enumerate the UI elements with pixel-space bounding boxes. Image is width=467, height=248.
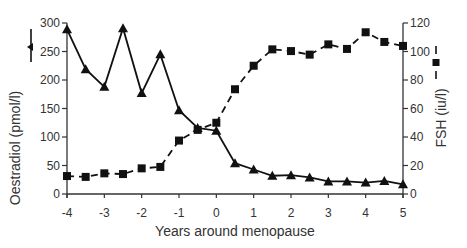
triangle-marker-icon — [27, 43, 33, 51]
y-right-tick-label: 80 — [410, 73, 424, 87]
square-marker-icon — [380, 38, 388, 46]
x-tick-label: 1 — [250, 206, 257, 220]
square-marker-icon — [100, 169, 108, 177]
triangle-marker-icon — [81, 64, 91, 73]
square-marker-icon — [343, 45, 351, 53]
y-right-tick-label: 120 — [410, 16, 430, 30]
x-tick-label: 3 — [325, 206, 332, 220]
y-right-tick-label: 0 — [410, 187, 417, 201]
fsh-line — [67, 32, 403, 177]
square-marker-icon — [156, 163, 164, 171]
square-marker-icon — [138, 164, 146, 172]
y-right-tick-label: 100 — [410, 45, 430, 59]
triangle-marker-icon — [62, 24, 72, 33]
dual-axis-line-chart: -4-3-2-101234505010015020025030002040608… — [0, 0, 467, 248]
x-tick-label: 5 — [400, 206, 407, 220]
x-axis-title: Years around menopause — [155, 223, 315, 239]
series-fsh — [63, 28, 407, 181]
triangle-marker-icon — [137, 88, 147, 97]
x-tick-label: 0 — [213, 206, 220, 220]
y-left-tick-label: 250 — [40, 45, 60, 59]
x-tick-label: -3 — [99, 206, 110, 220]
y-axis-right-title: FSH (iu/l) — [433, 88, 449, 147]
triangle-marker-icon — [230, 158, 240, 167]
square-marker-icon — [250, 62, 258, 70]
y-left-tick-label: 0 — [53, 187, 60, 201]
y-left-tick-label: 200 — [40, 73, 60, 87]
square-marker-icon — [287, 47, 295, 55]
y-right-tick-label: 60 — [410, 102, 424, 116]
square-marker-icon — [362, 28, 370, 36]
y-left-tick-label: 50 — [47, 159, 61, 173]
triangle-marker-icon — [155, 49, 165, 58]
x-tick-label: 2 — [288, 206, 295, 220]
square-marker-icon — [231, 85, 239, 93]
square-marker-icon — [268, 45, 276, 53]
chart: -4-3-2-101234505010015020025030002040608… — [0, 0, 467, 248]
square-marker-icon — [63, 172, 71, 180]
y-left-tick-label: 150 — [40, 102, 60, 116]
triangle-marker-icon — [174, 105, 184, 114]
square-marker-icon — [82, 173, 90, 181]
y-right-tick-label: 40 — [410, 130, 424, 144]
square-marker-icon — [194, 126, 202, 134]
y-left-tick-label: 100 — [40, 130, 60, 144]
x-tick-label: -1 — [174, 206, 185, 220]
series-layer — [62, 23, 408, 188]
square-marker-icon — [306, 51, 314, 59]
square-marker-icon — [175, 137, 183, 145]
x-tick-label: 4 — [362, 206, 369, 220]
x-tick-label: -4 — [62, 206, 73, 220]
square-marker-icon — [119, 170, 127, 178]
y-axis-left-title: Oestradiol (pmol/l) — [7, 91, 23, 205]
square-marker-icon — [212, 119, 220, 127]
legend-fsh-symbol — [433, 46, 440, 79]
axes: -4-3-2-101234505010015020025030002040608… — [40, 16, 430, 220]
triangle-marker-icon — [118, 23, 128, 32]
series-oestradiol — [62, 23, 408, 188]
legend-oestradiol-symbol — [27, 29, 33, 62]
square-marker-icon — [399, 42, 407, 50]
y-right-tick-label: 20 — [410, 159, 424, 173]
labels-layer: Years around menopause Oestradiol (pmol/… — [7, 88, 449, 239]
y-left-tick-label: 300 — [40, 16, 60, 30]
square-marker-icon — [433, 59, 440, 66]
x-tick-label: -2 — [136, 206, 147, 220]
square-marker-icon — [324, 40, 332, 48]
